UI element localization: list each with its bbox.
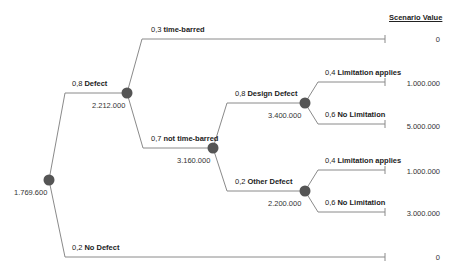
branch-name: time-barred — [163, 25, 204, 34]
branch-name: No Limitation — [337, 198, 385, 207]
chance-node-defect-icon — [122, 88, 133, 99]
branch-name: not time-barred — [163, 134, 218, 143]
edge-design-limitation-applies — [305, 82, 385, 103]
branch-label-other-limitation-applies: 0,4Limitation applies — [325, 156, 401, 165]
expected-value-defect: 2.212.000 — [92, 101, 125, 110]
branch-prob: 0,8 — [72, 79, 82, 88]
branch-label-other-no-limitation: 0,6No Limitation — [325, 198, 385, 207]
branch-prob: 0,3 — [151, 25, 161, 34]
expected-value-not-time-barred: 3.160.000 — [177, 156, 210, 165]
expected-value-root: 1.769.600 — [14, 188, 47, 197]
edge-design-defect — [213, 103, 305, 148]
edge-other-limitation-applies — [305, 170, 385, 191]
branch-label-time-barred: 0,3time-barred — [151, 25, 205, 34]
branch-prob: 0,6 — [325, 110, 335, 119]
terminal-value-other-no-limitation: 3.000.000 — [380, 209, 440, 218]
branch-label-other-defect: 0,2Other Defect — [235, 177, 292, 186]
expected-value-other-defect: 2.200.000 — [268, 199, 301, 208]
scenario-value-header: Scenario Value — [389, 13, 442, 22]
branch-name: Limitation applies — [337, 156, 401, 165]
branch-label-defect: 0,8Defect — [72, 79, 107, 88]
branch-name: Defect — [84, 79, 107, 88]
branch-prob: 0,2 — [235, 177, 245, 186]
terminal-value-design-no-limitation: 5.000.000 — [380, 122, 440, 131]
expected-value-design-defect: 3.400.000 — [268, 111, 301, 120]
branch-label-design-no-limitation: 0,6No Limitation — [325, 110, 385, 119]
branch-name: Design Defect — [247, 89, 297, 98]
branch-prob: 0,8 — [235, 89, 245, 98]
chance-node-other-defect-icon — [300, 186, 311, 197]
branch-prob: 0,2 — [72, 243, 82, 252]
branch-label-no-defect: 0,2No Defect — [72, 243, 119, 252]
branch-name: Other Defect — [247, 177, 292, 186]
chance-node-not-time-barred-icon — [208, 143, 219, 154]
branch-prob: 0,4 — [325, 68, 335, 77]
terminal-value-no-defect: 0 — [380, 253, 440, 262]
edge-time-barred — [127, 39, 385, 93]
terminal-value-time-barred: 0 — [380, 35, 440, 44]
branch-label-design-defect: 0,8Design Defect — [235, 89, 297, 98]
branch-name: Limitation applies — [337, 68, 401, 77]
chance-node-root-icon — [44, 175, 55, 186]
chance-node-design-defect-icon — [300, 98, 311, 109]
branch-label-not-time-barred: 0,7not time-barred — [151, 134, 218, 143]
branch-prob: 0,4 — [325, 156, 335, 165]
branch-name: No Limitation — [337, 110, 385, 119]
branch-label-design-limitation-applies: 0,4Limitation applies — [325, 68, 401, 77]
branch-prob: 0,7 — [151, 134, 161, 143]
branch-prob: 0,6 — [325, 198, 335, 207]
terminal-value-other-limitation-applies: 1.000.000 — [380, 167, 440, 176]
terminal-value-design-limitation-applies: 1.000.000 — [380, 79, 440, 88]
branch-name: No Defect — [84, 243, 119, 252]
